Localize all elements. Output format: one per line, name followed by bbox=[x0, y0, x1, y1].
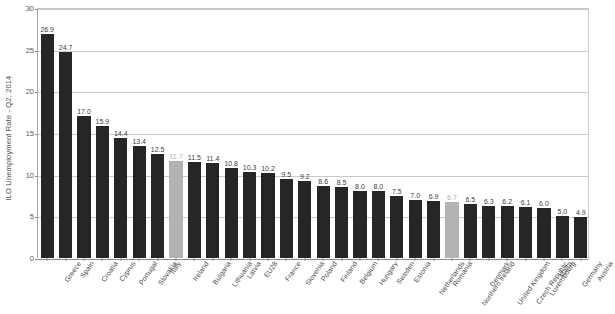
bar[interactable] bbox=[188, 162, 201, 258]
x-axis-label: Croatia bbox=[100, 260, 119, 283]
bar[interactable] bbox=[537, 208, 550, 258]
bar[interactable] bbox=[151, 154, 164, 258]
bar-slot[interactable]: 12.5 bbox=[148, 9, 166, 258]
bar-slot[interactable]: 6.0 bbox=[535, 9, 553, 258]
bar-slot[interactable]: 11.5 bbox=[185, 9, 203, 258]
bar[interactable] bbox=[556, 216, 569, 258]
bar-value-label: 9.5 bbox=[282, 171, 292, 178]
bar-slot[interactable]: 15.9 bbox=[93, 9, 111, 258]
bar[interactable] bbox=[41, 34, 54, 258]
bar-value-label: 15.9 bbox=[96, 118, 110, 125]
bar[interactable] bbox=[59, 52, 72, 258]
bar-slot[interactable]: 6.1 bbox=[516, 9, 534, 258]
bar-slot[interactable]: 26.9 bbox=[38, 9, 56, 258]
x-axis-category-labels: GreeceSpainCroatiaCyprusPortugalSlovakia… bbox=[37, 260, 589, 314]
bar-slot[interactable]: 24.7 bbox=[56, 9, 74, 258]
bar-slot[interactable]: 9.5 bbox=[277, 9, 295, 258]
bar-value-label: 11.7 bbox=[169, 153, 182, 160]
bar[interactable] bbox=[114, 138, 127, 258]
x-axis-label: France bbox=[283, 260, 302, 282]
x-axis-label: Bulgaria bbox=[211, 260, 232, 286]
bar-slot[interactable]: 8.6 bbox=[314, 9, 332, 258]
bar-slot[interactable]: 13.4 bbox=[130, 9, 148, 258]
bar-value-label: 10.2 bbox=[261, 165, 275, 172]
bar[interactable] bbox=[353, 191, 366, 258]
bar[interactable] bbox=[574, 217, 587, 258]
x-axis-label: Cyprus bbox=[118, 260, 137, 283]
bar[interactable] bbox=[445, 202, 458, 258]
bar-value-label: 11.5 bbox=[188, 154, 201, 161]
bar-value-label: 12.5 bbox=[151, 146, 165, 153]
bar-value-label: 6.7 bbox=[447, 194, 457, 201]
bar-slot[interactable]: 17.0 bbox=[75, 9, 93, 258]
bar-value-label: 10.8 bbox=[224, 160, 238, 167]
bar[interactable] bbox=[464, 204, 477, 258]
bar-value-label: 10.3 bbox=[243, 164, 257, 171]
bar[interactable] bbox=[409, 200, 422, 258]
bar[interactable] bbox=[206, 163, 219, 258]
bar-slot[interactable]: 6.5 bbox=[461, 9, 479, 258]
bar[interactable] bbox=[298, 181, 311, 258]
bar-slot[interactable]: 10.2 bbox=[259, 9, 277, 258]
bar-slot[interactable]: 10.8 bbox=[222, 9, 240, 258]
bar-value-label: 7.0 bbox=[410, 192, 420, 199]
bar[interactable] bbox=[482, 206, 495, 259]
bar-value-label: 14.4 bbox=[114, 130, 128, 137]
bar-value-label: 24.7 bbox=[59, 44, 73, 51]
y-axis-tick-label: 30 bbox=[26, 4, 34, 13]
x-axis-label: Belgium bbox=[358, 260, 379, 285]
bar-slot[interactable]: 14.4 bbox=[112, 9, 130, 258]
bar[interactable] bbox=[225, 168, 238, 258]
bar[interactable] bbox=[243, 172, 256, 258]
bar-slot[interactable]: 8.0 bbox=[351, 9, 369, 258]
bar-slot[interactable]: 6.2 bbox=[498, 9, 516, 258]
bar-slot[interactable]: 9.2 bbox=[296, 9, 314, 258]
bar[interactable] bbox=[372, 191, 385, 258]
x-axis-label: EU28 bbox=[263, 260, 279, 279]
bar-value-label: 4.9 bbox=[576, 209, 586, 216]
bar-value-label: 8.0 bbox=[355, 183, 365, 190]
x-axis-label: Northern Ireland bbox=[480, 260, 516, 307]
bar[interactable] bbox=[169, 161, 182, 259]
bar-slot[interactable]: 8.5 bbox=[332, 9, 350, 258]
bar-slot[interactable]: 7.0 bbox=[406, 9, 424, 258]
bar-slot[interactable]: 10.3 bbox=[240, 9, 258, 258]
bar-value-label: 6.3 bbox=[484, 198, 494, 205]
bar-slot[interactable]: 6.9 bbox=[424, 9, 442, 258]
bar-value-label: 6.9 bbox=[429, 193, 439, 200]
bar[interactable] bbox=[390, 196, 403, 259]
bar-slot[interactable]: 11.4 bbox=[204, 9, 222, 258]
x-axis-label: Ireland bbox=[191, 260, 209, 282]
bar-slot[interactable]: 6.3 bbox=[480, 9, 498, 258]
bar-slot[interactable]: 8.0 bbox=[369, 9, 387, 258]
bar-slot[interactable]: 4.9 bbox=[572, 9, 590, 258]
bar[interactable] bbox=[77, 116, 90, 258]
y-axis-tick-label: 15 bbox=[26, 129, 34, 138]
bar-value-label: 6.5 bbox=[466, 196, 476, 203]
bar[interactable] bbox=[280, 179, 293, 258]
x-axis-label: Greece bbox=[63, 260, 82, 283]
bar-value-label: 26.9 bbox=[40, 26, 54, 33]
bar[interactable] bbox=[501, 206, 514, 258]
y-axis-tick-label: 0 bbox=[30, 254, 34, 263]
bar[interactable] bbox=[519, 207, 532, 258]
bar-value-label: 8.0 bbox=[374, 183, 384, 190]
bar[interactable] bbox=[335, 187, 348, 258]
bar[interactable] bbox=[427, 201, 440, 259]
x-axis-label: Finland bbox=[339, 260, 358, 283]
bar-slot[interactable]: 5.0 bbox=[553, 9, 571, 258]
bar-slot[interactable]: 6.7 bbox=[443, 9, 461, 258]
bar-slot[interactable]: 11.7 bbox=[167, 9, 185, 258]
bar[interactable] bbox=[317, 186, 330, 258]
bar[interactable] bbox=[261, 173, 274, 258]
y-axis-tick-labels: 051015202530 bbox=[14, 8, 34, 258]
bar[interactable] bbox=[96, 126, 109, 259]
bar-slot[interactable]: 7.5 bbox=[388, 9, 406, 258]
bar-value-label: 9.2 bbox=[300, 173, 310, 180]
bar[interactable] bbox=[133, 146, 146, 258]
bar-series: 26.924.717.015.914.413.412.511.711.511.4… bbox=[38, 9, 588, 258]
y-axis-tick-label: 10 bbox=[26, 170, 34, 179]
bar-value-label: 11.4 bbox=[206, 155, 219, 162]
plot-area: 26.924.717.015.914.413.412.511.711.511.4… bbox=[37, 8, 589, 258]
